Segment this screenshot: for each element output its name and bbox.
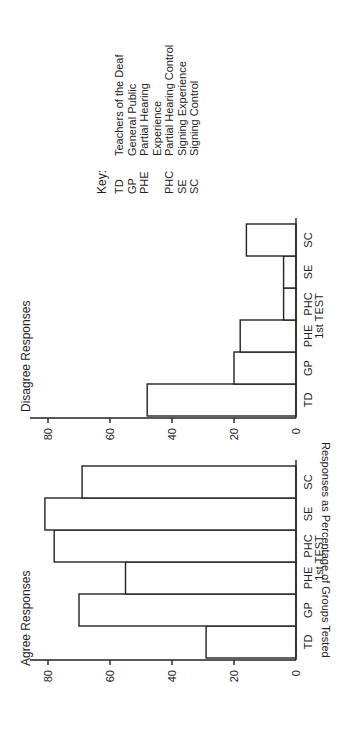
x-tick-label: SE (302, 265, 314, 280)
y-tick-label: 40 (166, 428, 178, 440)
y-tick-label: 60 (104, 670, 116, 682)
key-label: Experience (151, 101, 163, 156)
key-label: Signing Experience (176, 61, 188, 156)
bar-se (45, 498, 296, 530)
x-tick-label: SE (302, 507, 314, 522)
x-tick-label: SC (302, 232, 314, 247)
bar-td (206, 626, 296, 658)
y-tick-label: 40 (166, 670, 178, 682)
key-entries: TDTeachers of the DeafGPGeneral PublicPH… (113, 45, 200, 194)
legend-key: Key: TDTeachers of the DeafGPGeneral Pub… (95, 45, 200, 194)
key-label: Signing Control (188, 81, 200, 156)
agree-chart-title: Agree Responses (19, 571, 33, 666)
bar-td (147, 384, 296, 416)
x-tick-label: TD (302, 635, 314, 650)
key-abbr: GP (126, 178, 138, 194)
disagree-chart-title: Disagree Responses (19, 301, 33, 412)
y-tick-label: 60 (104, 428, 116, 440)
x-tick-label: TD (302, 393, 314, 408)
bar-gp (79, 594, 296, 626)
rotated-figure: Agree Responses 020406080TDGPPHEPHCSESC1… (0, 0, 342, 730)
bar-sc (82, 466, 296, 498)
key-abbr: PHC (163, 171, 175, 194)
bar-sc (246, 224, 296, 256)
x-axis-sublabel: 1st TEST (313, 293, 325, 339)
x-tick-label: GP (302, 602, 314, 618)
figure-canvas: Agree Responses 020406080TDGPPHEPHCSESC1… (0, 0, 342, 730)
key-abbr: TD (113, 179, 125, 194)
y-tick-label: 80 (42, 428, 54, 440)
y-tick-label: 20 (228, 428, 240, 440)
key-label: General Public (126, 83, 138, 156)
key-title: Key: (95, 170, 109, 194)
key-label: Partial Hearing (138, 83, 150, 156)
key-abbr: SE (176, 179, 188, 194)
y-tick-label: 0 (290, 670, 302, 676)
y-tick-label: 20 (228, 670, 240, 682)
agree-bars (45, 466, 296, 658)
bar-phc (54, 530, 296, 562)
bar-phe (240, 320, 296, 352)
bar-gp (234, 352, 296, 384)
key-abbr: PHE (138, 171, 150, 194)
bar-phc (284, 288, 296, 320)
key-label: Teachers of the Deaf (113, 54, 125, 156)
bar-se (284, 256, 296, 288)
bar-phe (126, 562, 297, 594)
disagree-chart: Disagree Responses 020406080TDGPPHEPHCSE… (19, 218, 325, 440)
agree-chart: Agree Responses 020406080TDGPPHEPHCSESC1… (19, 442, 332, 682)
key-abbr: SC (188, 179, 200, 194)
key-label: Partial Hearing Control (163, 45, 175, 156)
disagree-bars (147, 224, 296, 416)
y-axis-label: Responses as Percentage of Groups Tested (320, 442, 332, 658)
x-tick-label: GP (302, 360, 314, 376)
x-tick-label: SC (302, 474, 314, 489)
y-tick-label: 80 (42, 670, 54, 682)
y-tick-label: 0 (290, 428, 302, 434)
